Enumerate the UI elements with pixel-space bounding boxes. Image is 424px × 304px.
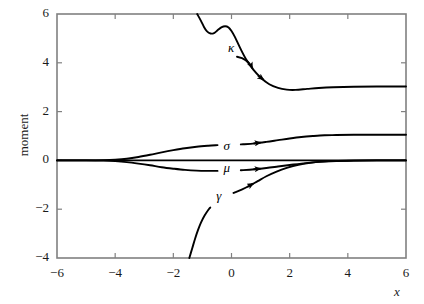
x-tick-label: 4 (339, 265, 357, 281)
x-tick-label: −6 (48, 265, 66, 281)
y-tick-label: 2 (25, 103, 49, 119)
x-tick-label: 0 (223, 265, 241, 281)
y-tick-label: 4 (25, 54, 49, 70)
x-tick-label: 2 (281, 265, 299, 281)
arrow-gamma (247, 184, 253, 187)
plot-area (0, 0, 424, 304)
curve-gamma-right (234, 160, 406, 193)
y-tick-label: 0 (25, 151, 49, 167)
curve-sigma-right (241, 135, 406, 145)
curve-label-kappa: κ (228, 40, 234, 56)
curve-label-sigma: σ (224, 138, 230, 154)
y-tick-label: −2 (25, 200, 49, 216)
curve-mu-left (57, 160, 218, 171)
chart-figure: moment x −6−4−20246−4−20246 κσμγ (0, 0, 424, 304)
x-axis-title: x (394, 284, 400, 300)
curve-gamma-left (189, 208, 210, 258)
x-tick-label: 6 (397, 265, 415, 281)
curve-sigma-left (57, 145, 218, 160)
arrow-kappa (258, 75, 264, 79)
curve-label-mu: μ (224, 160, 231, 176)
x-tick-label: −2 (164, 265, 182, 281)
arrow-mu (254, 169, 261, 170)
arrow-sigma (254, 143, 261, 144)
x-tick-label: −4 (106, 265, 124, 281)
y-tick-label: −4 (25, 249, 49, 265)
curve-label-gamma: γ (216, 188, 221, 204)
y-tick-label: 6 (25, 5, 49, 21)
